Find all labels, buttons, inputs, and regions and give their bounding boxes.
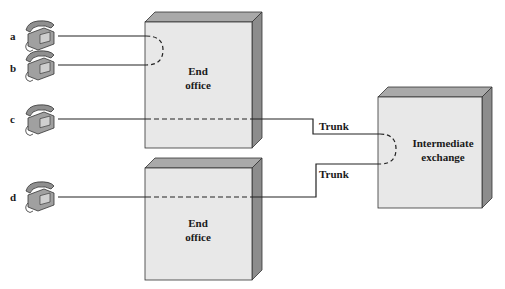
telephone-icon-d [26,182,54,213]
trunk-label-bottom: Trunk [319,168,349,180]
end-office-top-label-line1: End [175,64,221,78]
subscriber-label-b: b [10,62,16,74]
end-office-top-label-line2: office [175,78,221,92]
intermediate-exchange-label-line2: exchange [398,150,488,164]
subscriber-label-d: d [10,191,16,203]
subscriber-label-c: c [10,113,15,125]
end-office-bottom-label-line2: office [175,230,221,244]
intermediate-exchange-label-line1: Intermediate [398,136,488,150]
telephone-icon-b [26,51,54,82]
telephone-icon-c [26,105,54,136]
intermediate-exchange-label: Intermediate exchange [398,136,488,164]
trunk-label-top: Trunk [319,120,349,132]
end-office-bottom-label-line1: End [175,216,221,230]
subscriber-label-a: a [10,30,16,42]
telephone-icon-a [26,21,54,52]
end-office-top-label: End office [175,64,221,92]
end-office-bottom-label: End office [175,216,221,244]
